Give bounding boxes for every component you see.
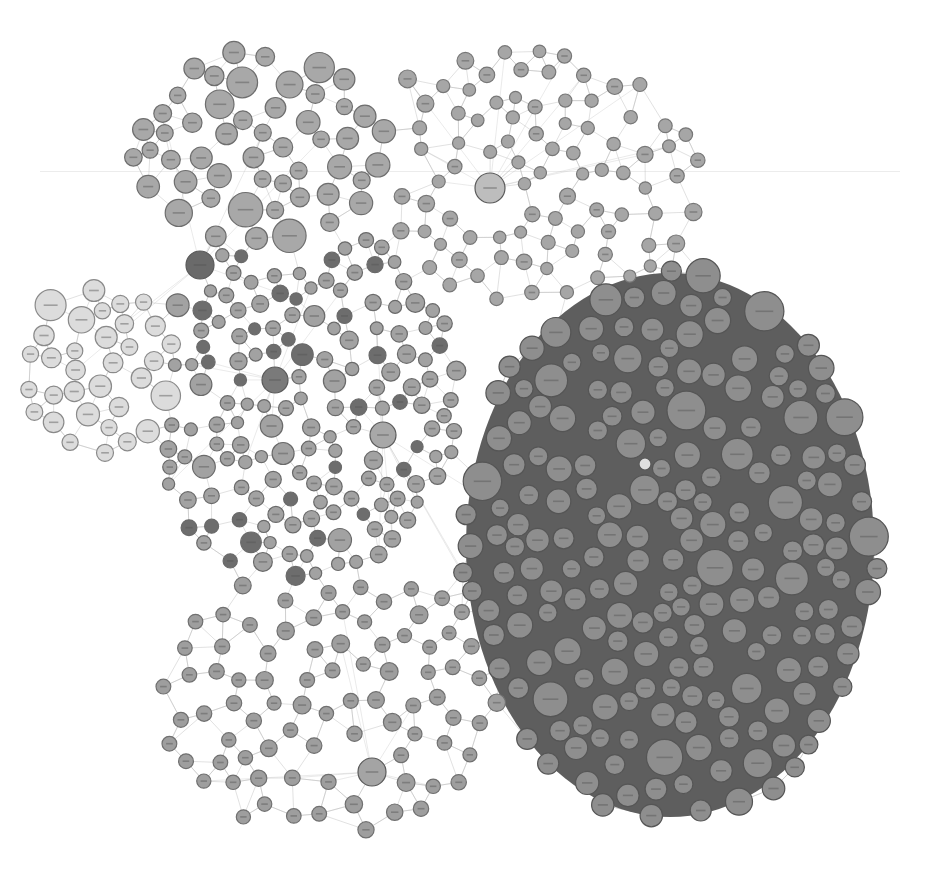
graph-node — [742, 558, 765, 581]
graph-node — [832, 571, 850, 589]
graph-node — [367, 522, 382, 537]
graph-node — [683, 576, 702, 595]
graph-node — [282, 546, 297, 561]
graph-node — [230, 353, 247, 370]
graph-node — [562, 560, 581, 579]
graph-node — [808, 656, 829, 677]
graph-node — [234, 374, 246, 386]
graph-node — [577, 168, 589, 180]
graph-node — [641, 318, 664, 341]
graph-node — [726, 788, 753, 815]
graph-node — [230, 303, 246, 319]
graph-node — [516, 254, 532, 270]
graph-node — [714, 289, 732, 307]
graph-node — [354, 105, 376, 127]
graph-node — [317, 183, 339, 205]
graph-node — [670, 507, 693, 530]
graph-node — [799, 735, 818, 754]
graph-node — [68, 307, 94, 333]
graph-node — [764, 698, 789, 723]
graph-node — [160, 441, 177, 458]
graph-node — [630, 475, 660, 505]
graph-node — [624, 111, 637, 124]
graph-node — [684, 614, 705, 635]
graph-node — [232, 329, 247, 344]
graph-node — [581, 121, 594, 134]
graph-node — [232, 673, 246, 687]
graph-node — [749, 462, 771, 484]
graph-node — [676, 321, 703, 348]
graph-node — [336, 605, 350, 619]
graph-node — [748, 721, 768, 741]
graph-node — [463, 748, 477, 762]
graph-node — [585, 94, 598, 107]
graph-node — [186, 359, 198, 371]
graph-node — [693, 656, 714, 677]
graph-node — [679, 128, 693, 142]
graph-node — [792, 626, 811, 645]
graph-node — [639, 182, 651, 194]
graph-node — [415, 142, 428, 155]
graph-node — [591, 271, 605, 285]
graph-node — [370, 322, 383, 335]
graph-node — [290, 162, 307, 179]
graph-node — [426, 779, 440, 793]
graph-node — [488, 694, 505, 711]
graph-node — [799, 508, 823, 532]
graph-node — [494, 231, 506, 243]
graph-node — [234, 111, 253, 130]
graph-node — [375, 498, 389, 512]
graph-node — [319, 273, 335, 289]
graph-node — [446, 710, 461, 725]
graph-node — [732, 673, 762, 703]
graph-node — [486, 426, 511, 451]
graph-node — [136, 294, 152, 310]
graph-node — [653, 603, 672, 622]
graph-node — [326, 505, 341, 520]
graph-node — [576, 478, 597, 499]
graph-node — [226, 266, 241, 281]
graph-node — [393, 223, 409, 239]
graph-node — [563, 353, 581, 371]
graph-node — [403, 379, 420, 396]
graph-node — [246, 713, 261, 728]
graph-node — [145, 316, 165, 336]
graph-node — [574, 455, 596, 477]
graph-node — [505, 537, 524, 556]
graph-node — [347, 726, 362, 741]
graph-node — [367, 257, 383, 273]
graph-node — [725, 375, 752, 402]
graph-node — [728, 530, 749, 551]
graph-node — [232, 437, 249, 454]
graph-node — [685, 203, 702, 220]
graph-node — [305, 282, 317, 294]
graph-node — [614, 317, 634, 337]
graph-node — [310, 530, 326, 546]
graph-node — [745, 292, 784, 331]
graph-node — [529, 395, 552, 418]
graph-node — [249, 348, 262, 361]
graph-node — [162, 150, 181, 169]
graph-node — [490, 292, 503, 305]
graph-node — [546, 489, 571, 514]
graph-node — [663, 140, 676, 153]
graph-node — [216, 249, 229, 262]
graph-node — [310, 567, 322, 579]
graph-node — [607, 137, 620, 150]
graph-node — [226, 775, 240, 789]
graph-node — [647, 739, 683, 775]
graph-node — [375, 401, 389, 415]
graph-node — [826, 513, 845, 532]
graph-node — [353, 580, 368, 595]
graph-node — [590, 203, 604, 217]
graph-node — [463, 84, 476, 97]
graph-node — [207, 164, 231, 188]
graph-node — [633, 78, 647, 92]
graph-node — [690, 636, 709, 655]
graph-node — [89, 375, 111, 397]
graph-node — [413, 801, 428, 816]
graph-node — [337, 308, 352, 323]
graph-node — [626, 525, 649, 548]
graph-node — [285, 517, 301, 533]
graph-node — [306, 85, 325, 104]
